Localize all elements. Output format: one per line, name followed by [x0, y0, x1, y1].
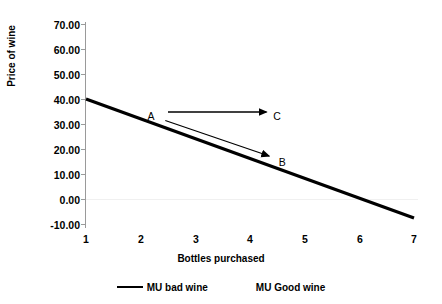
annotation-label-b: B [279, 156, 286, 168]
y-tick-mark [81, 224, 85, 225]
y-tick-mark [81, 74, 85, 75]
y-tick-label: 10.00 [24, 169, 80, 181]
zero-gridline [86, 199, 418, 200]
legend-item-mu-good-wine[interactable]: MU Good wine [252, 282, 325, 293]
y-tick-label: 20.00 [24, 144, 80, 156]
y-tick-label: 50.00 [24, 69, 80, 81]
y-tick-mark [81, 149, 85, 150]
y-tick-mark [81, 99, 85, 100]
legend-label: MU bad wine [147, 282, 208, 293]
x-tick-label: 1 [74, 233, 98, 245]
y-tick-label: 0.00 [24, 194, 80, 206]
legend-item-mu-bad-wine[interactable]: MU bad wine [117, 282, 208, 293]
x-tick-label: 7 [402, 233, 426, 245]
chart-legend: MU bad wine MU Good wine [0, 279, 442, 295]
x-tick-label: 2 [129, 233, 153, 245]
y-tick-mark [81, 199, 85, 200]
legend-line-swatch-icon [117, 286, 143, 288]
annotation-label-a: A [148, 110, 155, 122]
x-tick-label: 4 [238, 233, 262, 245]
y-tick-label: 30.00 [24, 119, 80, 131]
y-tick-mark [81, 174, 85, 175]
annotation-label-c: C [273, 110, 281, 122]
y-tick-label: 60.00 [24, 44, 80, 56]
annotation-arrow-a-to-b [165, 121, 269, 157]
x-axis-title: Bottles purchased [0, 253, 442, 264]
chart-figure: Price of wine 70.00 60.00 50.00 40.00 30… [0, 0, 442, 304]
x-tick-label: 6 [348, 233, 372, 245]
y-tick-label: 40.00 [24, 94, 80, 106]
y-axis-line [85, 22, 86, 228]
y-axis-title: Price of wine [6, 0, 17, 116]
y-tick-mark [81, 24, 85, 25]
y-tick-mark [81, 124, 85, 125]
data-line-mu-bad-wine [86, 99, 414, 218]
y-tick-mark [81, 49, 85, 50]
x-tick-label: 3 [184, 233, 208, 245]
legend-label: MU Good wine [256, 282, 325, 293]
x-tick-label: 5 [293, 233, 317, 245]
y-tick-label: 70.00 [24, 19, 80, 31]
y-tick-label: -10.00 [24, 219, 80, 231]
